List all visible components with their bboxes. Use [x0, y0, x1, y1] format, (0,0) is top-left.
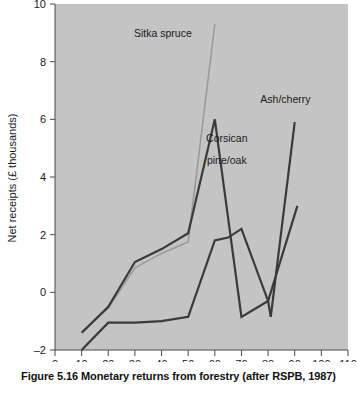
- x-axis-tick-label: 100: [312, 358, 330, 362]
- x-axis-tick-label: 110: [339, 358, 357, 362]
- x-axis-tick-label: 40: [155, 358, 167, 362]
- y-axis-tick-label: 0: [40, 286, 46, 298]
- line-chart: –20246810 0102030405060708090100110 Sitk…: [0, 0, 357, 362]
- figure-container: –20246810 0102030405060708090100110 Sitk…: [0, 0, 357, 393]
- x-axis-tick-label: 60: [209, 358, 221, 362]
- x-axis-tick-label: 0: [52, 358, 58, 362]
- x-axis-tick-label: 80: [262, 358, 274, 362]
- chart-plot-region: –20246810 0102030405060708090100110 Sitk…: [0, 0, 357, 362]
- y-axis-tick-label: 8: [40, 56, 46, 68]
- x-axis: 0102030405060708090100110: [52, 350, 357, 362]
- x-axis-tick-label: 90: [289, 358, 301, 362]
- figure-caption: Figure 5.16 Monetary returns from forest…: [0, 370, 357, 382]
- annotation-label: Ash/cherry: [260, 93, 311, 105]
- y-axis: –20246810: [34, 0, 55, 356]
- y-axis-tick-label: –2: [34, 344, 46, 356]
- x-axis-tick-label: 10: [76, 358, 88, 362]
- y-axis-title: Net receipts (£ thousands): [6, 113, 18, 242]
- annotation-label: Sitka spruce: [134, 27, 192, 39]
- y-axis-tick-label: 4: [40, 171, 46, 183]
- y-axis-tick-label: 10: [34, 0, 46, 10]
- x-axis-tick-label: 30: [129, 358, 141, 362]
- x-axis-tick-label: 50: [182, 358, 194, 362]
- y-axis-tick-label: 6: [40, 113, 46, 125]
- y-axis-tick-label: 2: [40, 229, 46, 241]
- x-axis-tick-label: 20: [102, 358, 114, 362]
- x-axis-tick-label: 70: [235, 358, 247, 362]
- annotation-label: pine/oak: [207, 154, 247, 166]
- annotation-label: Corsican: [206, 132, 248, 144]
